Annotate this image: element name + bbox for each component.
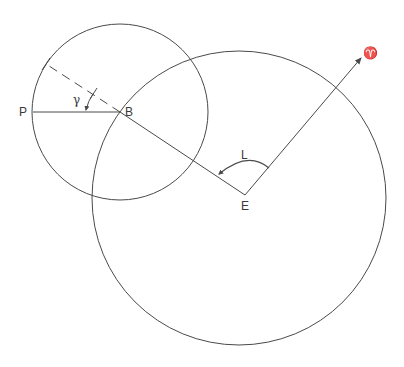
tick-mark-edge xyxy=(42,58,50,70)
aries-icon: ♈ xyxy=(363,46,378,60)
large-circle xyxy=(92,51,386,345)
diagram-canvas: P B E L γ ♈ xyxy=(0,0,404,367)
label-l: L xyxy=(241,148,248,162)
l-angle-arc xyxy=(219,160,269,174)
label-gamma: γ xyxy=(73,93,80,107)
gamma-arc xyxy=(86,94,93,110)
label-p: P xyxy=(19,105,27,119)
label-e: E xyxy=(241,199,249,213)
dashed-line-b xyxy=(46,64,120,112)
line-e-aries xyxy=(245,58,361,195)
line-b-e xyxy=(120,112,245,195)
label-b: B xyxy=(125,105,133,119)
